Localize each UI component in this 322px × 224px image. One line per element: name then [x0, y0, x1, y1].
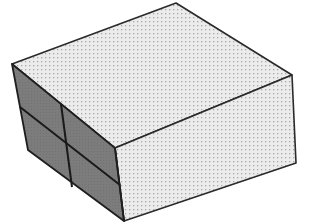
isometric-box-drawing	[0, 0, 322, 224]
diagram-canvas	[0, 0, 322, 224]
